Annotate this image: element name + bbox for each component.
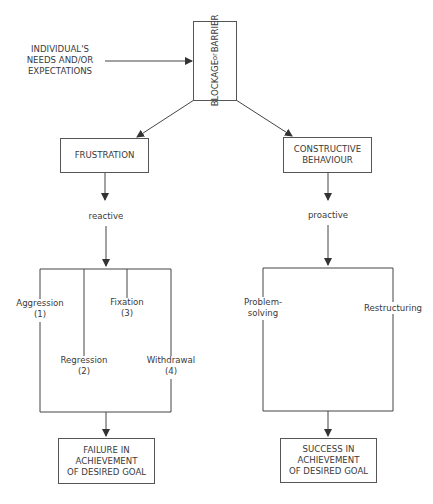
response-withdrawal: Withdrawal (4) (141, 355, 201, 377)
response-fixation: Fixation (3) (97, 297, 157, 319)
response-problem-solving: Problem- solving (233, 297, 293, 319)
reactive-label: reactive (76, 211, 136, 222)
input-label: INDIVIDUAL'S NEEDS AND/OR EXPECTATIONS (12, 44, 108, 77)
blockage-box: BLOCKAGE or BARRIER (193, 21, 237, 101)
response-regression: Regression (2) (54, 355, 114, 377)
success-outcome-box: SUCCESS IN ACHIEVEMENT OF DESIRED GOAL (280, 438, 377, 483)
proactive-label: proactive (298, 210, 358, 221)
blockage-text: BLOCKAGE or BARRIER (210, 15, 221, 106)
response-aggression: Aggression (1) (10, 298, 70, 320)
constructive-behaviour-box: CONSTRUCTIVE BEHAVIOUR (283, 137, 372, 173)
frustration-box: FRUSTRATION (60, 138, 149, 173)
failure-outcome-box: FAILURE IN ACHIEVEMENT OF DESIRED GOAL (58, 438, 155, 484)
response-restructuring: Restructuring (358, 303, 428, 314)
